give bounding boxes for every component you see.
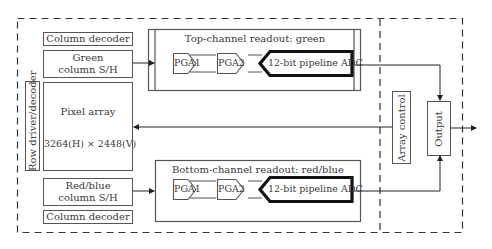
- redblue-sh-line1: Red/blue: [44, 180, 132, 192]
- column-decoder-top-label: Column decoder: [44, 33, 132, 45]
- column-decoder-bottom-label: Column decoder: [44, 211, 132, 223]
- bottom-pga1-label: PGA1: [174, 183, 194, 195]
- pixel-array-title: Pixel array: [44, 106, 132, 118]
- bottom-pga2-label: PGA2: [218, 183, 240, 195]
- green-column-sh: Green column S/H: [43, 50, 133, 78]
- pixel-array: Pixel array 3264(H) × 2448(V): [43, 82, 133, 171]
- redblue-sh-line2: column S/H: [44, 192, 132, 204]
- pixel-array-size: 3264(H) × 2448(V): [44, 138, 132, 150]
- bottom-adc-label: 12-bit pipeline ADC: [268, 183, 352, 195]
- row-driver-label: Row driver/decoder: [27, 81, 39, 171]
- redblue-column-sh: Red/blue column S/H: [43, 178, 133, 206]
- green-sh-line1: Green: [44, 52, 132, 64]
- output-label: Output: [433, 102, 445, 157]
- array-control: Array control: [392, 91, 411, 164]
- column-decoder-bottom: Column decoder: [43, 210, 133, 224]
- array-control-label: Array control: [396, 92, 408, 165]
- green-sh-line2: column S/H: [44, 64, 132, 76]
- top-adc-label: 12-bit pipeline ADC: [268, 57, 352, 69]
- column-decoder-top: Column decoder: [43, 32, 133, 46]
- top-pga2-label: PGA2: [218, 57, 240, 69]
- bottom-channel-title: Bottom-channel readout: red/blue: [156, 164, 360, 176]
- top-channel-title: Top-channel readout: green: [156, 33, 354, 45]
- row-driver-decoder: Row driver/decoder: [25, 81, 40, 171]
- top-pga1-label: PGA1: [174, 57, 194, 69]
- output-block: Output: [427, 101, 451, 156]
